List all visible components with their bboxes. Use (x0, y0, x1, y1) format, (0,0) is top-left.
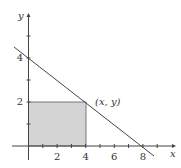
coordinate-plot: 2 4 6 8 2 4 x y (x, y) (0, 0, 181, 168)
x-tick-label: 4 (83, 151, 89, 162)
y-tick-label: 4 (17, 52, 23, 63)
point-label: (x, y) (95, 96, 121, 107)
x-tick-label: 2 (54, 151, 60, 162)
shaded-rectangle (29, 102, 87, 146)
x-axis-label: x (170, 148, 176, 159)
x-tick-label: 6 (111, 151, 117, 162)
x-tick-label: 8 (140, 151, 146, 162)
y-axis-arrow-icon (27, 13, 31, 17)
y-axis-label: y (17, 10, 24, 21)
diagram: 2 4 6 8 2 4 x y (x, y) (0, 0, 181, 168)
y-tick-label: 2 (17, 96, 23, 107)
